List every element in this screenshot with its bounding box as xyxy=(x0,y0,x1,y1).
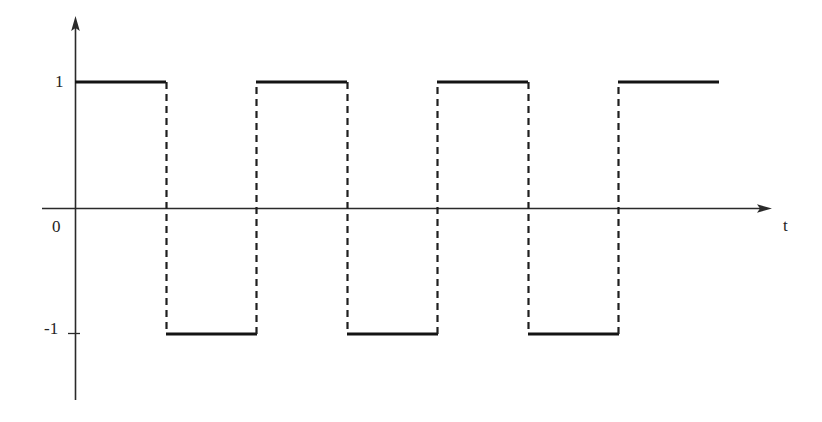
y-tick-label-low: -1 xyxy=(44,320,58,337)
x-axis-label: t xyxy=(783,217,788,234)
square-wave-figure: 1 0 -1 t xyxy=(0,0,822,422)
plot-canvas xyxy=(0,0,822,422)
axes-group xyxy=(42,16,772,400)
y-tick-label-zero: 0 xyxy=(52,218,61,235)
y-tick-label-high: 1 xyxy=(55,73,64,90)
